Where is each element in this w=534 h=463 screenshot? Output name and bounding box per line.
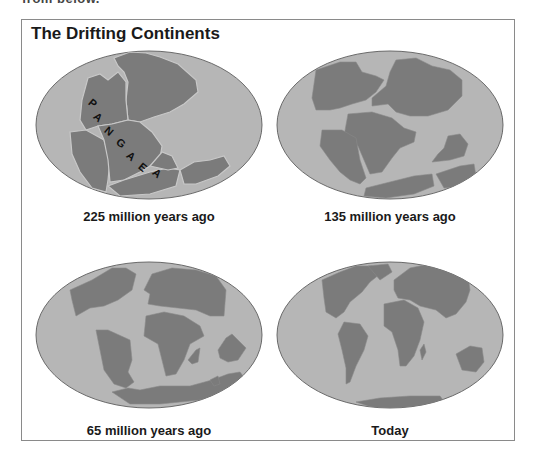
caption-65-million: 65 million years ago: [29, 423, 269, 438]
map-225-million: P A N G A E A: [36, 51, 262, 199]
caption-today: Today: [270, 423, 510, 438]
caption-135-million: 135 million years ago: [270, 209, 510, 224]
caption-225-million: 225 million years ago: [29, 209, 269, 224]
map-135-million: [277, 51, 503, 199]
map-today: [277, 262, 503, 410]
map-65-million: [36, 262, 262, 408]
maps-canvas: P A N G A E A: [0, 0, 534, 463]
